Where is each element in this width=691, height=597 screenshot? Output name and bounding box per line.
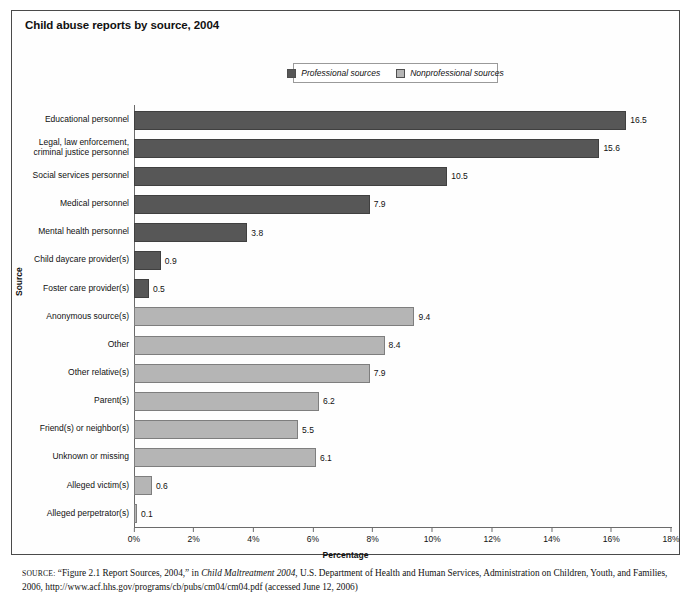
bar-nonprofessional: [134, 392, 319, 411]
category-label: Mental health personnel: [5, 226, 129, 237]
x-tick-label: 10%: [424, 534, 441, 544]
legend-swatch-nonprofessional: [396, 69, 405, 78]
x-tick-label: 8%: [367, 534, 379, 544]
bar-professional: [134, 139, 599, 158]
chart-legend: Professional sources Nonprofessional sou…: [293, 63, 498, 83]
x-tick-mark: [491, 528, 492, 532]
x-tick-mark: [611, 528, 612, 532]
source-note-publication: Child Maltreatment 2004: [201, 568, 295, 578]
x-tick: 16%: [603, 528, 620, 544]
category-label: Foster care provider(s): [5, 283, 129, 294]
x-axis-title: Percentage: [0, 550, 691, 560]
category-label: Unknown or missing: [5, 451, 129, 462]
bar-row: 3.8: [134, 218, 671, 248]
page-title: Child abuse reports by source, 2004: [25, 19, 219, 31]
x-tick-mark: [670, 528, 671, 532]
x-tick-mark: [253, 528, 254, 532]
x-tick-mark: [193, 528, 194, 532]
bar-row: 6.2: [134, 386, 671, 416]
category-label: Parent(s): [5, 395, 129, 406]
legend-label-professional: Professional sources: [301, 68, 380, 78]
bar-value-label: 15.6: [603, 143, 620, 153]
bar-value-label: 8.4: [389, 340, 401, 350]
bar-nonprofessional: [134, 307, 414, 326]
x-tick: 4%: [247, 528, 259, 544]
x-tick-label: 0%: [128, 534, 140, 544]
bar-professional: [134, 279, 149, 298]
bar-nonprofessional: [134, 448, 316, 467]
bar-professional: [134, 223, 247, 242]
plot-area: 16.515.610.57.93.80.90.59.48.47.96.25.56…: [134, 105, 671, 527]
source-note: SOURCE: “Figure 2.1 Report Sources, 2004…: [22, 567, 672, 593]
bar-professional: [134, 167, 447, 186]
bar-row: 7.9: [134, 189, 671, 219]
legend-item-nonprofessional: Nonprofessional sources: [396, 68, 504, 78]
bar-row: 0.5: [134, 274, 671, 304]
x-tick-label: 12%: [483, 534, 500, 544]
bar-row: 15.6: [134, 133, 671, 163]
bar-row: 10.5: [134, 161, 671, 191]
bar-row: 7.9: [134, 358, 671, 388]
category-label: Alleged perpetrator(s): [5, 508, 129, 519]
bar-value-label: 10.5: [451, 171, 468, 181]
x-tick-label: 6%: [307, 534, 319, 544]
bar-nonprofessional: [134, 504, 137, 523]
bar-row: 6.1: [134, 443, 671, 473]
category-label: Social services personnel: [5, 170, 129, 181]
bar-row: 0.9: [134, 246, 671, 276]
x-tick-label: 14%: [543, 534, 560, 544]
y-axis-category-labels: Educational personnelLegal, law enforcem…: [0, 105, 129, 527]
bar-nonprofessional: [134, 336, 385, 355]
bar-row: 16.5: [134, 105, 671, 135]
x-tick: 2%: [188, 528, 200, 544]
bar-row: 8.4: [134, 330, 671, 360]
category-label: Child daycare provider(s): [5, 254, 129, 265]
x-tick: 14%: [543, 528, 560, 544]
category-label: Alleged victim(s): [5, 480, 129, 491]
category-label: Legal, law enforcement, criminal justice…: [5, 137, 129, 158]
bar-professional: [134, 195, 370, 214]
bar-row: 5.5: [134, 414, 671, 444]
x-tick: 6%: [307, 528, 319, 544]
legend-swatch-professional: [287, 69, 296, 78]
bar-professional: [134, 111, 626, 130]
x-tick: 18%: [662, 528, 679, 544]
bar-value-label: 16.5: [630, 115, 647, 125]
bar-nonprofessional: [134, 364, 370, 383]
bar-value-label: 5.5: [302, 425, 314, 435]
category-label: Medical personnel: [5, 198, 129, 209]
x-tick-label: 2%: [188, 534, 200, 544]
category-label: Friend(s) or neighbor(s): [5, 423, 129, 434]
bar-value-label: 9.4: [418, 312, 430, 322]
category-label: Other relative(s): [5, 367, 129, 378]
bar-value-label: 3.8: [251, 228, 263, 238]
bar-nonprofessional: [134, 420, 298, 439]
x-tick-mark: [551, 528, 552, 532]
legend-item-professional: Professional sources: [287, 68, 380, 78]
x-tick-mark: [432, 528, 433, 532]
bar-value-label: 6.1: [320, 453, 332, 463]
bar-row: 0.6: [134, 471, 671, 501]
category-label: Educational personnel: [5, 114, 129, 125]
bar-value-label: 6.2: [323, 396, 335, 406]
bar-value-label: 0.6: [156, 481, 168, 491]
x-tick-label: 4%: [247, 534, 259, 544]
x-tick: 0%: [128, 528, 140, 544]
x-tick-label: 16%: [603, 534, 620, 544]
category-label: Other: [5, 339, 129, 350]
x-tick: 8%: [367, 528, 379, 544]
bar-value-label: 7.9: [374, 368, 386, 378]
category-label: Anonymous source(s): [5, 311, 129, 322]
bar-nonprofessional: [134, 476, 152, 495]
legend-label-nonprofessional: Nonprofessional sources: [410, 68, 504, 78]
bar-value-label: 0.1: [141, 509, 153, 519]
x-tick: 12%: [483, 528, 500, 544]
x-tick-mark: [372, 528, 373, 532]
bar-value-label: 7.9: [374, 199, 386, 209]
bar-value-label: 0.5: [153, 284, 165, 294]
x-tick: 10%: [424, 528, 441, 544]
x-tick-mark: [133, 528, 134, 532]
bar-value-label: 0.9: [165, 256, 177, 266]
bar-row: 9.4: [134, 302, 671, 332]
x-tick-mark: [312, 528, 313, 532]
